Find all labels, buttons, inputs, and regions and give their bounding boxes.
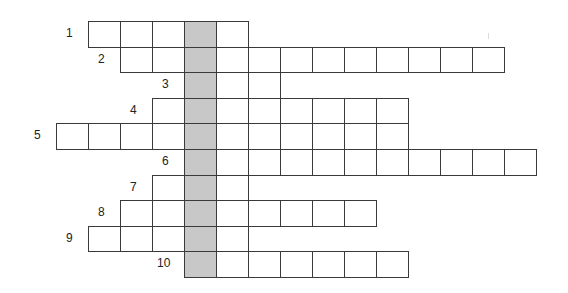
answer-cell[interactable] [312, 251, 345, 278]
answer-cell[interactable] [440, 149, 473, 176]
answer-cell[interactable] [248, 123, 281, 150]
answer-cell[interactable] [216, 21, 249, 48]
answer-cell[interactable] [312, 123, 345, 150]
answer-cell[interactable] [120, 123, 153, 150]
answer-cell[interactable] [120, 200, 153, 227]
answer-cell[interactable] [376, 98, 409, 125]
scan-speck [488, 33, 489, 39]
answer-cell[interactable] [120, 226, 153, 253]
shaded-answer-cell[interactable] [184, 47, 217, 74]
answer-cell[interactable] [152, 175, 185, 202]
answer-cell[interactable] [88, 226, 121, 253]
answer-cell[interactable] [56, 123, 89, 150]
answer-cell[interactable] [248, 149, 281, 176]
answer-cell[interactable] [216, 149, 249, 176]
answer-cell[interactable] [216, 200, 249, 227]
answer-cell[interactable] [152, 200, 185, 227]
answer-cell[interactable] [216, 175, 249, 202]
answer-cell[interactable] [312, 200, 345, 227]
answer-cell[interactable] [312, 98, 345, 125]
answer-cell[interactable] [120, 47, 153, 74]
crossword-grid: 12345678910 [0, 0, 568, 293]
shaded-answer-cell[interactable] [184, 149, 217, 176]
answer-cell[interactable] [344, 47, 377, 74]
answer-cell[interactable] [248, 98, 281, 125]
clue-number: 4 [130, 104, 137, 116]
answer-cell[interactable] [88, 123, 121, 150]
answer-cell[interactable] [376, 251, 409, 278]
answer-cell[interactable] [280, 149, 313, 176]
answer-cell[interactable] [216, 226, 249, 253]
answer-cell[interactable] [248, 251, 281, 278]
answer-cell[interactable] [408, 149, 441, 176]
answer-cell[interactable] [120, 21, 153, 48]
shaded-answer-cell[interactable] [184, 226, 217, 253]
answer-cell[interactable] [344, 200, 377, 227]
answer-cell[interactable] [376, 123, 409, 150]
shaded-answer-cell[interactable] [184, 72, 217, 99]
answer-cell[interactable] [280, 47, 313, 74]
clue-number: 7 [130, 181, 137, 193]
answer-cell[interactable] [376, 47, 409, 74]
clue-number: 8 [98, 206, 105, 218]
answer-cell[interactable] [280, 251, 313, 278]
answer-cell[interactable] [504, 149, 537, 176]
answer-cell[interactable] [152, 123, 185, 150]
shaded-answer-cell[interactable] [184, 200, 217, 227]
shaded-answer-cell[interactable] [184, 175, 217, 202]
clue-number: 2 [98, 53, 105, 65]
answer-cell[interactable] [344, 149, 377, 176]
answer-cell[interactable] [216, 72, 249, 99]
answer-cell[interactable] [440, 47, 473, 74]
answer-cell[interactable] [216, 47, 249, 74]
clue-number: 1 [66, 27, 73, 39]
answer-cell[interactable] [248, 200, 281, 227]
answer-cell[interactable] [344, 98, 377, 125]
answer-cell[interactable] [312, 47, 345, 74]
answer-cell[interactable] [88, 21, 121, 48]
answer-cell[interactable] [248, 47, 281, 74]
clue-number: 6 [162, 155, 169, 167]
clue-number: 3 [162, 78, 169, 90]
answer-cell[interactable] [216, 98, 249, 125]
answer-cell[interactable] [152, 21, 185, 48]
answer-cell[interactable] [152, 226, 185, 253]
answer-cell[interactable] [216, 251, 249, 278]
answer-cell[interactable] [472, 47, 505, 74]
shaded-answer-cell[interactable] [184, 21, 217, 48]
answer-cell[interactable] [408, 47, 441, 74]
answer-cell[interactable] [248, 72, 281, 99]
answer-cell[interactable] [280, 123, 313, 150]
clue-number: 5 [34, 129, 41, 141]
answer-cell[interactable] [376, 149, 409, 176]
answer-cell[interactable] [344, 251, 377, 278]
answer-cell[interactable] [312, 149, 345, 176]
answer-cell[interactable] [216, 123, 249, 150]
answer-cell[interactable] [472, 149, 505, 176]
clue-number: 9 [66, 232, 73, 244]
answer-cell[interactable] [344, 123, 377, 150]
shaded-answer-cell[interactable] [184, 98, 217, 125]
clue-number: 10 [157, 257, 170, 269]
answer-cell[interactable] [280, 98, 313, 125]
answer-cell[interactable] [152, 47, 185, 74]
answer-cell[interactable] [280, 200, 313, 227]
shaded-answer-cell[interactable] [184, 123, 217, 150]
shaded-answer-cell[interactable] [184, 251, 217, 278]
answer-cell[interactable] [152, 98, 185, 125]
